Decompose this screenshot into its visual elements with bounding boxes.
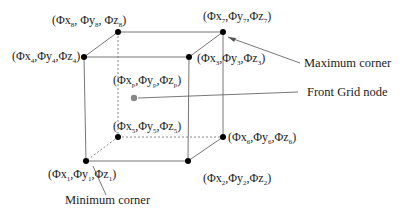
node-label-4: (Φx4,Φy4,Φz4) <box>12 50 80 65</box>
node-label-2: (Φx2,Φy2,Φz2) <box>203 172 271 187</box>
cube-diagram: (Φx8, Φy8, Φz8) (Φx4,Φy4,Φz4) (Φx7,Φy7,Φ… <box>0 0 403 218</box>
maximum-corner-label: Maximum corner <box>304 57 391 70</box>
node-label-6: (Φx6,Φy6,Φz6) <box>228 131 296 146</box>
arrowhead-icon <box>228 37 236 42</box>
node-label-5: (Φx5,Φy5,Φz5) <box>113 120 181 135</box>
node-label-3: (Φx3,Φy3,Φz3) <box>197 52 265 67</box>
node-label-8: (Φx8, Φy8, Φz8) <box>52 14 126 29</box>
node-label-1: (Φx1,Φy1,Φz1) <box>48 168 116 183</box>
front-grid-node-label: Front Grid node <box>307 86 388 99</box>
corner-nodes <box>81 29 226 164</box>
node-label-7: (Φx7,Φy7,Φz7) <box>203 10 271 25</box>
front-grid-node-marker <box>131 95 137 101</box>
cube-graphic <box>0 0 403 218</box>
minimum-corner-label: Minimum corner <box>65 194 150 207</box>
node-label-p: (Φxp,Φyp,Φzp) <box>113 74 181 89</box>
